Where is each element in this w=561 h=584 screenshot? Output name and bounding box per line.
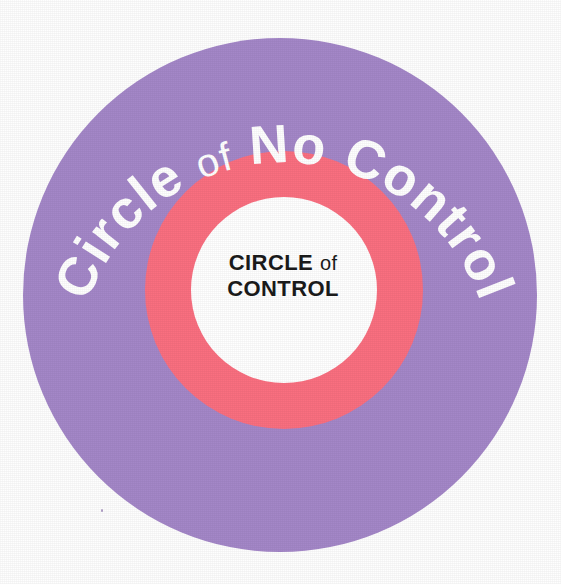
diagram-canvas: Circle of No Control CIRCLEof CONTROL — [0, 0, 561, 584]
inner-circle-of-control — [191, 197, 377, 383]
circle-of-control-diagram: Circle of No Control — [0, 0, 561, 584]
